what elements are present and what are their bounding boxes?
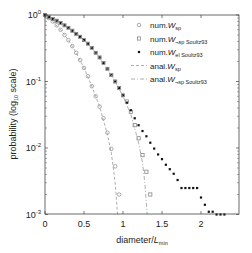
data-point: [149, 193, 152, 196]
data-point: [200, 196, 202, 198]
data-point: [184, 187, 186, 189]
data-point: [157, 153, 159, 155]
legend-label: anal.W¬sp Soultz93: [150, 75, 207, 85]
data-point: [212, 211, 214, 213]
legend-item: num.W¬sp Soultz93: [137, 35, 207, 45]
x-tick-label: 1.5: [156, 219, 169, 229]
data-point: [138, 51, 140, 53]
legend-item: num.Wel Soultz93: [138, 48, 203, 58]
x-tick-label: 1: [120, 219, 125, 229]
x-tick-label: 0.5: [78, 219, 91, 229]
legend-item: anal.W¬sp Soultz93: [131, 75, 207, 85]
series-num-w-sp-soultz93: [43, 13, 151, 196]
y-tick-label: 10-2: [26, 142, 42, 153]
legend-label: num.Wsp: [150, 21, 181, 31]
data-point: [161, 158, 163, 160]
data-point: [130, 109, 132, 111]
y-tick-label: 10-3: [26, 209, 42, 220]
data-point: [113, 165, 117, 169]
data-point: [177, 179, 179, 181]
x-axis-ticks: 00.511.52: [42, 15, 203, 229]
data-point: [173, 173, 175, 175]
data-point: [165, 164, 167, 166]
series-line: [45, 15, 147, 215]
data-point: [145, 135, 147, 137]
y-tick-label: 100: [28, 9, 42, 20]
data-point: [74, 51, 78, 55]
data-point: [204, 204, 206, 206]
data-point: [145, 170, 148, 173]
data-point: [137, 23, 141, 27]
legend-label: anal.Wsp: [150, 62, 181, 72]
x-axis-label: diameter/Lmin: [116, 235, 167, 246]
data-point: [137, 37, 140, 40]
legend-item: num.Wsp: [137, 21, 181, 31]
plot-frame: [45, 15, 239, 214]
data-point: [117, 193, 121, 197]
x-tick-label: 0: [42, 219, 47, 229]
legend-label: num.W¬sp Soultz93: [150, 35, 207, 45]
data-point: [134, 117, 136, 119]
legend-item: anal.Wsp: [131, 62, 181, 72]
data-point: [196, 187, 198, 189]
data-point: [192, 187, 194, 189]
legend: num.Wspnum.W¬sp Soultz93num.Wel Soultz93…: [131, 21, 207, 85]
legend-label: num.Wel Soultz93: [150, 48, 203, 58]
data-point: [153, 147, 155, 149]
data-point: [149, 142, 151, 144]
series-anal-w-sp: [45, 15, 118, 215]
data-point: [180, 187, 182, 189]
data-point: [169, 168, 171, 170]
y-axis-label: probability (log10 scale): [8, 68, 19, 159]
data-point: [141, 130, 143, 132]
series-line: [45, 15, 118, 215]
series-anal-w-sp-soultz93: [45, 15, 147, 215]
data-point: [188, 187, 190, 189]
data-point: [138, 124, 140, 126]
data-point: [208, 211, 210, 213]
y-tick-label: 10-1: [26, 76, 42, 87]
chart: 00.511.52 10010-110-210-3 diameter/Lmin …: [0, 0, 252, 253]
data-point: [98, 105, 102, 109]
x-tick-label: 2: [198, 219, 203, 229]
